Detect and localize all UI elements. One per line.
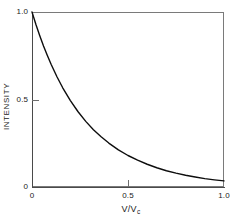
x-axis-title: V/Vc xyxy=(96,204,166,214)
intensity-curve xyxy=(32,12,224,187)
y-tick-mark xyxy=(32,100,39,101)
x-tick-mark xyxy=(128,180,129,187)
x-tick-label: 0.5 xyxy=(116,191,140,200)
y-axis-title-wrapper: INTENSITY xyxy=(0,72,12,148)
x-axis-title-subscript: c xyxy=(137,208,141,215)
figure-canvas: 00.51.0 00.51.0 INTENSITY V/Vc xyxy=(0,0,238,224)
x-tick-label: 0 xyxy=(20,191,44,200)
x-tick-label: 1.0 xyxy=(212,191,236,200)
x-axis-spine xyxy=(32,187,225,188)
y-tick-label: 0 xyxy=(2,182,28,191)
x-axis-title-main: V/V xyxy=(122,204,137,214)
y-tick-label: 1.0 xyxy=(2,7,28,16)
y-axis-title: INTENSITY xyxy=(2,69,11,145)
